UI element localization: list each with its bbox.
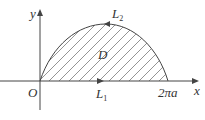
y-axis-label: y [30,7,36,20]
l1-label: L1 [96,87,107,103]
endpoint-2pia-label: 2πa [158,86,178,99]
x-axis-label: x [194,84,200,97]
l1-direction-arrow-icon [97,78,104,84]
region-d-label: D [98,48,107,61]
y-axis-arrow-icon [37,9,43,16]
l2-direction-arrow-icon [104,21,110,27]
origin-label: O [28,86,37,99]
l2-label: L2 [112,7,123,23]
